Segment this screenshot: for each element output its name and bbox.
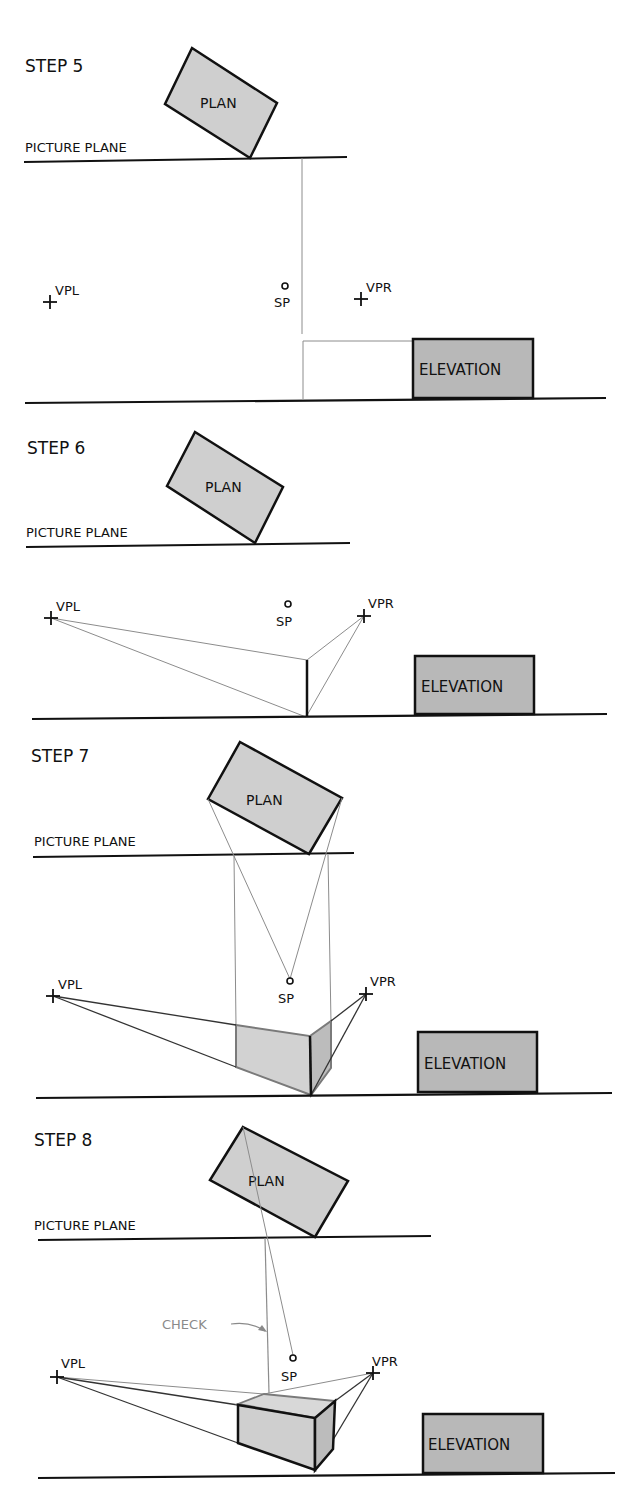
plan-label: PLAN: [246, 792, 283, 808]
check-arrowhead-icon: [258, 1325, 267, 1332]
station-point-icon: [290, 1355, 296, 1361]
vpl-label: VPL: [56, 599, 81, 614]
sp-label: SP: [278, 991, 294, 1006]
step-6-panel: STEP 6 PLAN PICTURE PLANE VPL SP VPR ELE…: [26, 432, 607, 719]
picture-plane-line: [24, 157, 347, 162]
vpl-cross-icon: [50, 1370, 64, 1384]
construction-line: [335, 1373, 373, 1401]
construction-line: [307, 616, 364, 660]
station-point-icon: [282, 283, 288, 289]
ground-line: [38, 1473, 615, 1478]
vpr-label: VPR: [372, 1354, 398, 1369]
step-5-title: STEP 5: [25, 56, 83, 76]
left-face: [236, 1025, 311, 1095]
sp-label: SP: [281, 1369, 297, 1384]
right-face: [310, 1021, 331, 1095]
station-point-icon: [285, 601, 291, 607]
picture-plane-label: PICTURE PLANE: [25, 140, 127, 155]
step-5-panel: STEP 5 PLAN PICTURE PLANE VPL SP VPR ELE…: [24, 48, 606, 403]
construction-line: [331, 994, 366, 1021]
vpl-label: VPL: [58, 977, 83, 992]
sp-label: SP: [276, 614, 292, 629]
vpr-label: VPR: [370, 974, 396, 989]
vpr-label: VPR: [368, 596, 394, 611]
vpr-cross-icon: [359, 987, 373, 1001]
vpl-label: VPL: [55, 283, 80, 298]
vpr-cross-icon: [357, 609, 371, 623]
step-6-title: STEP 6: [27, 438, 85, 458]
check-label: CHECK: [162, 1317, 207, 1332]
check-line: [265, 1238, 269, 1393]
picture-plane-label: PICTURE PLANE: [34, 834, 136, 849]
elevation-label: ELEVATION: [419, 361, 501, 379]
perspective-steps-diagram: STEP 5 PLAN PICTURE PLANE VPL SP VPR ELE…: [0, 0, 629, 1486]
ground-line: [32, 714, 607, 719]
plan-label: PLAN: [200, 95, 237, 111]
construction-line: [53, 996, 236, 1067]
construction-line: [51, 618, 307, 660]
picture-plane-line: [33, 853, 354, 857]
elevation-label: ELEVATION: [421, 678, 503, 696]
step-7-panel: STEP 7 PLAN PICTURE PLANE VPL SP VPR: [31, 742, 612, 1098]
picture-plane-line: [26, 543, 350, 547]
step-8-title: STEP 8: [34, 1130, 92, 1150]
step-7-title: STEP 7: [31, 746, 89, 766]
construction-line: [51, 618, 306, 717]
ground-line: [36, 1093, 612, 1098]
elevation-label: ELEVATION: [424, 1055, 506, 1073]
ground-line: [25, 398, 606, 403]
construction-line: [328, 855, 331, 1022]
elevation-label: ELEVATION: [428, 1436, 510, 1454]
vpl-label: VPL: [61, 1356, 86, 1371]
picture-plane-label: PICTURE PLANE: [26, 525, 128, 540]
construction-line: [306, 616, 364, 717]
sp-label: SP: [274, 295, 290, 310]
construction-line: [234, 856, 236, 1025]
front-vertical-edge: [310, 1036, 311, 1095]
construction-line: [53, 996, 236, 1025]
vpr-label: VPR: [366, 280, 392, 295]
picture-plane-line: [38, 1236, 431, 1240]
picture-plane-label: PICTURE PLANE: [34, 1218, 136, 1233]
construction-line: [57, 1377, 238, 1405]
construction-line: [57, 1377, 264, 1394]
plan-label: PLAN: [205, 479, 242, 495]
construction-line: [57, 1377, 238, 1443]
step-8-panel: STEP 8 PLAN PICTURE PLANE CHECK VPL SP: [34, 1127, 615, 1478]
